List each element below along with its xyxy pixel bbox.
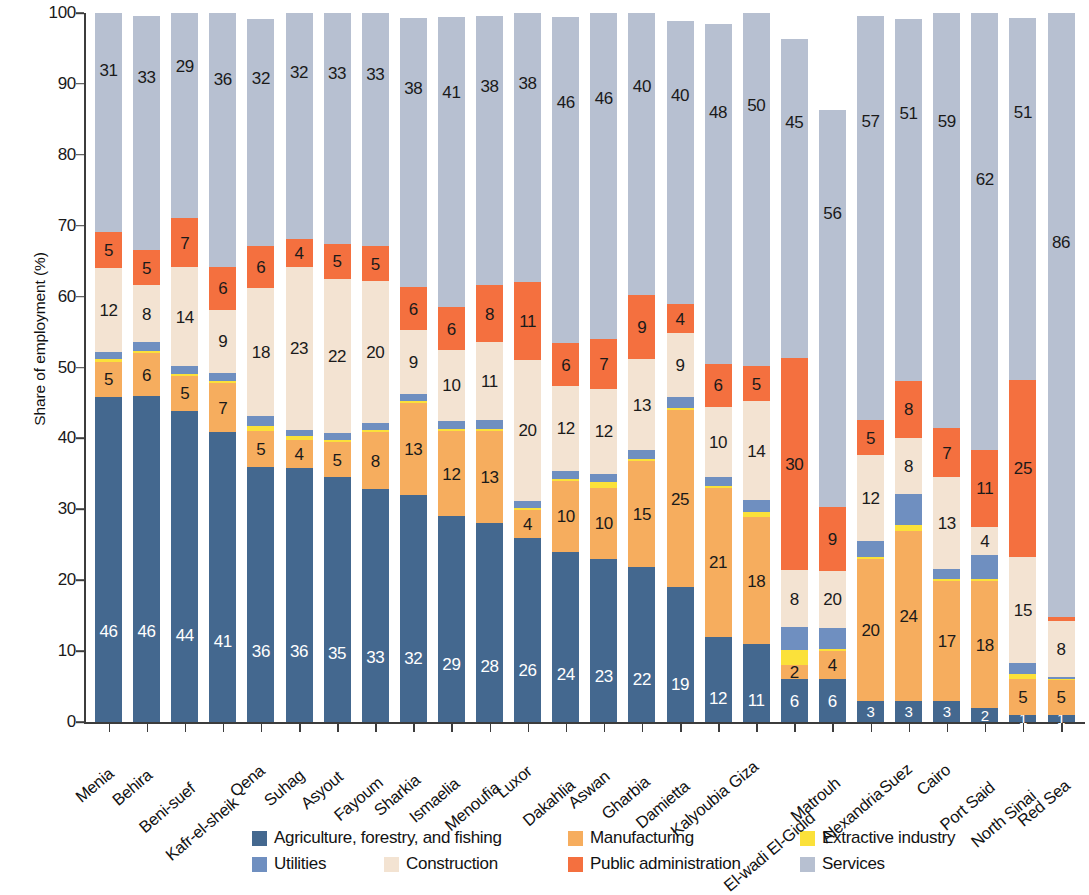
bar-segment-public_administration: 25 bbox=[1009, 380, 1036, 557]
bar-behira[interactable]: 4668533 bbox=[133, 13, 160, 722]
bar-segment-utilities bbox=[628, 450, 655, 458]
bar-value-label: 3 bbox=[905, 704, 913, 719]
bar-value-label: 11 bbox=[748, 692, 765, 709]
x-tick-mark bbox=[794, 723, 796, 732]
bar-segment-agriculture: 32 bbox=[400, 495, 427, 722]
bar-value-label: 6 bbox=[790, 692, 799, 709]
y-tick-mark bbox=[76, 83, 84, 85]
chart-root: Share of employment (%) 0102030405060708… bbox=[0, 0, 1089, 895]
bar-asyout[interactable]: 35522533 bbox=[324, 13, 351, 722]
legend-label: Services bbox=[822, 854, 885, 874]
bar-value-label: 23 bbox=[595, 668, 613, 685]
bar-kalyoubia[interactable]: 122110648 bbox=[705, 13, 732, 722]
bar-fayoum[interactable]: 33820533 bbox=[362, 13, 389, 722]
bar-value-label: 57 bbox=[861, 112, 879, 129]
bar-value-label: 20 bbox=[823, 591, 841, 608]
bar-aswan[interactable]: 231012746 bbox=[590, 13, 617, 722]
bar-segment-public_administration: 5 bbox=[133, 250, 160, 285]
bar-red-sea[interactable]: 15886 bbox=[1048, 13, 1075, 722]
bar-value-label: 30 bbox=[785, 455, 803, 472]
legend-item[interactable]: Utilities bbox=[252, 854, 384, 874]
bar-segment-manufacturing: 7 bbox=[209, 383, 236, 432]
bar-segment-extractive bbox=[667, 408, 694, 410]
bar-luxor[interactable]: 264201138 bbox=[514, 13, 541, 722]
bar-value-label: 31 bbox=[99, 62, 117, 79]
bar-damietta[interactable]: 19259440 bbox=[667, 13, 694, 722]
bar-giza[interactable]: 111814550 bbox=[743, 13, 770, 722]
bar-menia[interactable]: 46512531 bbox=[95, 13, 122, 722]
bar-segment-services: 40 bbox=[667, 21, 694, 305]
bar-segment-services: 45 bbox=[781, 39, 808, 358]
bar-north-sinai[interactable]: 15152551 bbox=[1009, 13, 1036, 722]
legend-item[interactable]: Agriculture, forestry, and fishing bbox=[252, 828, 568, 848]
bar-value-label: 4 bbox=[294, 245, 303, 262]
bar-alexandria[interactable]: 32012557 bbox=[857, 13, 884, 722]
bar-segment-construction: 8 bbox=[133, 285, 160, 342]
bar-matrouh[interactable]: 6420956 bbox=[819, 13, 846, 722]
bar-menoufia[interactable]: 281311838 bbox=[476, 13, 503, 722]
bar-value-label: 13 bbox=[938, 514, 956, 531]
x-tick-mark bbox=[261, 723, 263, 732]
bar-value-label: 41 bbox=[214, 632, 232, 649]
y-tick-label: 20 bbox=[28, 570, 76, 590]
bar-segment-services: 38 bbox=[476, 16, 503, 285]
legend-item[interactable]: Construction bbox=[384, 854, 568, 874]
bar-el-wadi-el-gidid[interactable]: 6283045 bbox=[781, 13, 808, 722]
bar-segment-utilities bbox=[362, 423, 389, 430]
bar-segment-utilities bbox=[400, 394, 427, 401]
bar-value-label: 86 bbox=[1052, 234, 1070, 251]
bar-value-label: 5 bbox=[866, 429, 875, 446]
bar-value-label: 32 bbox=[290, 63, 308, 80]
bar-sharkia[interactable]: 32139638 bbox=[400, 13, 427, 722]
bar-segment-manufacturing: 8 bbox=[362, 432, 389, 489]
bar-segment-utilities bbox=[247, 416, 274, 426]
bar-dakahlia[interactable]: 241012646 bbox=[552, 13, 579, 722]
legend-label: Utilities bbox=[274, 854, 326, 874]
bar-segment-utilities bbox=[476, 420, 503, 429]
bar-value-label: 44 bbox=[176, 626, 194, 643]
bar-segment-public_administration: 5 bbox=[95, 232, 122, 267]
bar-value-label: 4 bbox=[980, 533, 989, 550]
bar-beni-suef[interactable]: 44514729 bbox=[171, 13, 198, 722]
bar-value-label: 13 bbox=[480, 469, 498, 486]
bar-kafr-el-sheik[interactable]: 4179636 bbox=[209, 13, 236, 722]
bar-value-label: 21 bbox=[709, 554, 727, 571]
legend-item[interactable]: Services bbox=[800, 854, 885, 874]
bar-segment-agriculture: 29 bbox=[438, 516, 465, 722]
bar-value-label: 6 bbox=[828, 692, 837, 709]
bar-value-label: 5 bbox=[104, 371, 113, 388]
bar-segment-extractive bbox=[514, 508, 541, 510]
bar-gharbia[interactable]: 221513940 bbox=[628, 13, 655, 722]
bar-segment-utilities bbox=[1048, 677, 1075, 678]
bar-segment-extractive bbox=[476, 429, 503, 431]
bar-value-label: 9 bbox=[409, 353, 418, 370]
bar-suhag[interactable]: 36423432 bbox=[286, 13, 313, 722]
bar-qena[interactable]: 36518632 bbox=[247, 13, 274, 722]
bar-segment-manufacturing: 10 bbox=[590, 488, 617, 559]
bar-suez[interactable]: 3248851 bbox=[895, 13, 922, 722]
bar-segment-extractive bbox=[362, 430, 389, 433]
bar-value-label: 8 bbox=[142, 305, 151, 322]
bar-value-label: 24 bbox=[557, 666, 575, 683]
bar-segment-manufacturing: 13 bbox=[400, 403, 427, 495]
chart-legend: Agriculture, forestry, and fishingManufa… bbox=[252, 828, 1012, 880]
bar-port-said[interactable]: 21841162 bbox=[971, 13, 998, 722]
bar-value-label: 5 bbox=[104, 241, 113, 258]
bar-cairo[interactable]: 31713759 bbox=[933, 13, 960, 722]
bar-segment-utilities bbox=[819, 628, 846, 649]
bar-ismaelia[interactable]: 291210641 bbox=[438, 13, 465, 722]
bar-segment-manufacturing: 18 bbox=[743, 517, 770, 644]
bar-segment-public_administration: 11 bbox=[971, 450, 998, 527]
bar-segment-services: 51 bbox=[895, 19, 922, 381]
bar-value-label: 6 bbox=[218, 280, 227, 297]
y-tick-label: 80 bbox=[28, 145, 76, 165]
bar-segment-construction: 13 bbox=[933, 477, 960, 568]
bar-segment-utilities bbox=[133, 342, 160, 351]
bar-segment-public_administration: 30 bbox=[781, 358, 808, 571]
x-tick-mark bbox=[871, 723, 873, 732]
bar-value-label: 38 bbox=[480, 77, 498, 94]
bar-segment-manufacturing: 5 bbox=[1009, 679, 1036, 714]
bar-value-label: 45 bbox=[785, 113, 803, 130]
bar-value-label: 24 bbox=[900, 607, 918, 624]
bar-value-label: 10 bbox=[595, 515, 613, 532]
